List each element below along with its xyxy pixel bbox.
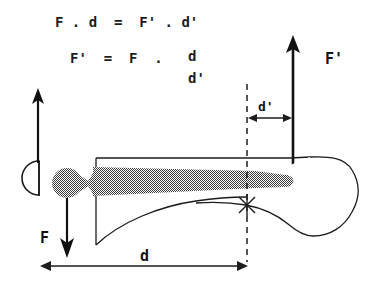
dimension-arrow-d <box>40 261 248 271</box>
arrow-joint-reaction-up <box>32 88 44 163</box>
dimension-arrow-d-prime <box>248 114 292 122</box>
acetabular-cup-icon <box>22 161 39 196</box>
figure-canvas: F . d = F' . d' F' = F . d d' F' F d d' <box>0 0 387 286</box>
diagram-artwork <box>0 0 387 286</box>
arrow-force-f-prime <box>286 35 300 175</box>
